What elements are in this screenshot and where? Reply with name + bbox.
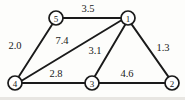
node-2-label: 2 xyxy=(170,79,175,89)
edge-weight-5-4: 2.0 xyxy=(8,40,21,51)
edge-weight-4-3: 2.8 xyxy=(49,68,62,79)
edge-5-4 xyxy=(19,25,52,76)
edge-weight-1-2: 1.3 xyxy=(156,42,169,53)
edge-weight-5-1: 3.5 xyxy=(81,3,94,14)
edge-weight-3-1: 3.1 xyxy=(88,45,101,56)
edge-weight-4-1: 7.4 xyxy=(55,35,69,46)
edge-weight-3-2: 4.6 xyxy=(120,68,133,79)
node-1-label: 1 xyxy=(126,14,131,24)
node-5-label: 5 xyxy=(54,14,59,24)
graph-diagram: 5 1 4 3 2 3.5 2.0 7.4 2.8 3.1 4.6 1.3 xyxy=(0,0,185,100)
graph-canvas: 5 1 4 3 2 3.5 2.0 7.4 2.8 3.1 4.6 1.3 xyxy=(0,0,185,100)
node-4-label: 4 xyxy=(13,79,18,89)
bottom-edge-band xyxy=(0,97,185,100)
node-3-label: 3 xyxy=(90,79,95,89)
